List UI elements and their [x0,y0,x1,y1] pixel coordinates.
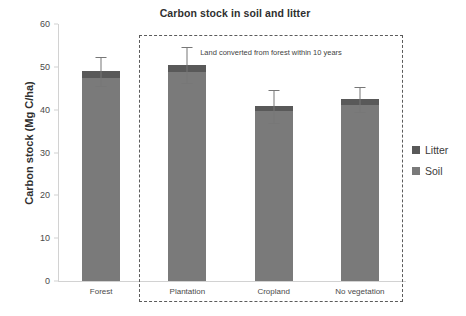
y-axis-tick-mark [54,238,58,239]
bar-segment-soil[interactable] [168,72,206,281]
y-axis-tick-mark [54,109,58,110]
error-bar-cap-bottom [268,123,279,124]
legend-swatch-icon [412,167,420,175]
bar-segment-soil[interactable] [82,78,120,281]
plot-area: 0102030405060 [58,24,403,281]
error-bar-cap-top [96,57,107,58]
y-axis-tick-mark [54,24,58,25]
legend-item[interactable]: Soil [412,165,448,177]
bar-segment-soil[interactable] [341,105,379,281]
error-bar-cap-bottom [354,112,365,113]
y-axis-tick-mark [54,66,58,67]
error-bar-cap-bottom [96,86,107,87]
bar-group[interactable] [168,24,206,281]
chart-legend: LitterSoil [412,144,448,186]
chart-title: Carbon stock in soil and litter [100,7,370,19]
bar-group[interactable] [341,24,379,281]
error-bar [359,87,360,113]
legend-item-label: Litter [425,144,448,156]
error-bar-cap-top [268,90,279,91]
y-axis-tick-mark [54,281,58,282]
error-bar-cap-top [354,87,365,88]
y-axis-tick-mark [54,195,58,196]
error-bar [273,90,274,123]
bar-group[interactable] [255,24,293,281]
legend-item-label: Soil [425,165,443,177]
bar-segment-soil[interactable] [255,111,293,281]
error-bar-cap-bottom [182,83,193,84]
conversion-annotation-label: Land converted from forest within 10 yea… [139,48,403,57]
x-axis-line [58,281,406,282]
legend-item[interactable]: Litter [412,144,448,156]
x-axis-tick-label: Cropland [257,287,289,296]
chart-container: Carbon stock in soil and litter Carbon s… [0,0,466,316]
bar-group[interactable] [82,24,120,281]
y-axis-title: Carbon stock (Mg C/ha) [23,48,35,238]
legend-swatch-icon [412,146,420,154]
y-axis-tick-mark [54,152,58,153]
x-axis-tick-label: Forest [90,287,113,296]
x-axis-tick-label: No vegetation [335,287,384,296]
x-axis-tick-label: Plantation [170,287,206,296]
error-bar [101,57,102,86]
